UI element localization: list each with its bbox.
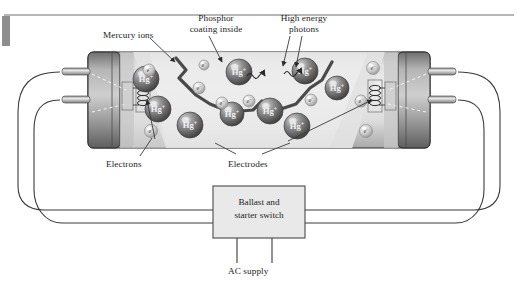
fluorescent-lamp-diagram: Hg+Hg+Hg+Hg+Hg+Hg+Hg+Hg+Hg+e–e–e–e–e–e–e… [0,0,518,293]
electron-particle: e– [193,82,205,94]
electron-particle: e– [305,94,317,106]
tube-cap-right [384,52,430,148]
label-electrons: Electrons [106,159,142,170]
electron-particle: e– [216,97,228,109]
mercury-ion-particle: Hg+ [226,59,252,85]
ballast-box[interactable]: Ballast and starter switch [213,186,305,238]
label-phosphor-line-2: coating inside [176,24,256,35]
figure-canvas: Hg+Hg+Hg+Hg+Hg+Hg+Hg+Hg+Hg+e–e–e–e–e–e–e… [0,0,518,293]
page-tab-marker [2,16,10,46]
tube-pins-left [62,68,90,103]
label-phosphor-line-1: Phosphor [176,13,256,24]
mercury-ion-particle: Hg+ [284,113,310,139]
mercury-ion-particle: Hg+ [325,76,349,100]
label-high-energy-photons: High energy photons [266,13,342,34]
tube-pins-right [428,68,456,103]
tube-cap-left [88,52,134,148]
electron-particle: e– [367,62,380,75]
ballast-line-1: Ballast and [238,197,279,207]
label-mercury-ions: Mercury ions [103,30,153,41]
electron-particle: e– [199,60,209,70]
label-electrodes: Electrodes [228,159,268,170]
label-photons-line-2: photons [266,24,342,35]
ballast-line-2: starter switch [234,210,284,220]
tube-inner-shading [133,52,385,148]
label-ac-supply: AC supply [228,266,268,277]
electron-particle: e– [145,125,158,138]
electron-particle: e– [143,64,155,76]
label-phosphor-coating: Phosphor coating inside [176,13,256,34]
electron-particle: e– [243,95,255,107]
electron-particle: e– [360,125,373,138]
mercury-ion-particle: Hg+ [292,58,318,84]
mercury-ion-particle: Hg+ [177,112,203,138]
label-photons-line-1: High energy [266,13,342,24]
fluorescent-tube: Hg+Hg+Hg+Hg+Hg+Hg+Hg+Hg+Hg+e–e–e–e–e–e–e… [62,52,456,148]
mercury-ion-particle: Hg+ [257,98,283,124]
